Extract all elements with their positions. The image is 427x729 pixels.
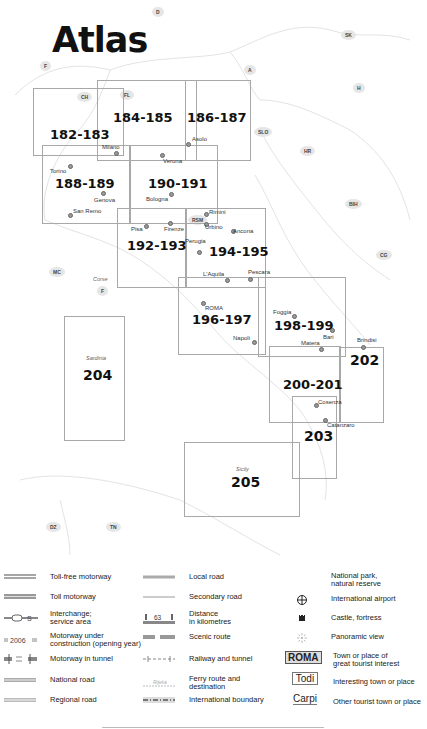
page-number-label[interactable]: 192-193 <box>127 238 187 253</box>
city-label: San Remo <box>73 208 101 214</box>
legend-item-regional-road: Regional road <box>4 695 97 705</box>
city-label: Cosenza <box>318 399 342 405</box>
legend-item-toll-motorway: Toll motorway <box>4 592 96 602</box>
ferry-route-icon: Rijeka <box>143 678 177 688</box>
region-label: Sicily <box>236 466 249 472</box>
country-code: A <box>244 65 256 75</box>
toll-motorway-icon <box>4 592 38 602</box>
legend-item-castle: Castle, fortress <box>285 613 381 623</box>
legend-item-national-park: National park, natural reserve <box>285 572 381 588</box>
national-park-icon <box>285 575 319 585</box>
legend-item-scenic-route: Scenic route <box>143 632 231 642</box>
city-label: L'Aquila <box>203 271 224 277</box>
legend-label: Railway and tunnel <box>189 655 252 663</box>
atlas-index-map: Atlas DFASKHCHFLSLOHRBIHCGMCRSMFDZTN 182… <box>0 0 427 560</box>
castle-icon <box>285 613 319 623</box>
city-marker-icon <box>319 347 324 352</box>
city-marker-icon <box>197 250 202 255</box>
legend-item-under-construction: 2006Motorway under construction (opening… <box>4 632 141 648</box>
legend-label: Distance in kilometres <box>189 610 231 626</box>
legend-item-other-town: CarpiOther tourist town or place <box>285 695 421 708</box>
map-legend: Toll-free motorwayToll motorwaySIntercha… <box>0 572 427 729</box>
country-code: D <box>152 7 164 17</box>
city-marker-icon <box>169 192 174 197</box>
legend-item-interesting-town: TodiInteresting town or place <box>285 675 415 688</box>
legend-label: Secondary road <box>189 593 242 601</box>
interchange-icon: S <box>4 613 38 623</box>
legend-label: Scenic route <box>189 633 231 641</box>
city-marker-icon <box>68 164 73 169</box>
city-label: Torino <box>50 168 66 174</box>
page-number-label[interactable]: 196-197 <box>192 312 252 327</box>
city-label: Matera <box>301 340 320 346</box>
country-code: H <box>353 83 365 93</box>
legend-label: National road <box>50 676 95 684</box>
city-label: ROMA <box>205 305 223 311</box>
svg-text:S: S <box>27 615 32 622</box>
country-code: BIH <box>345 199 362 209</box>
page-number-label[interactable]: 186-187 <box>187 110 247 125</box>
legend-item-great-town: ROMATown or place of great tourist inter… <box>285 652 399 668</box>
country-code: SK <box>341 30 356 40</box>
local-road-icon <box>143 572 177 582</box>
page-number-label[interactable]: 188-189 <box>55 176 115 191</box>
legend-item-toll-free-motorway: Toll-free motorway <box>4 572 111 582</box>
legend-item-ferry-route: RijekaFerry route and destination <box>143 675 240 691</box>
city-marker-icon <box>248 277 253 282</box>
city-label: Perugia <box>185 238 206 244</box>
motorway-tunnel-icon <box>4 654 38 664</box>
national-road-icon <box>4 675 38 685</box>
legend-label: International boundary <box>189 696 264 704</box>
legend-label: Toll motorway <box>50 593 96 601</box>
city-label: Urbino <box>205 224 223 230</box>
country-code: TN <box>106 522 121 532</box>
city-label: Brindisi <box>357 337 377 343</box>
legend-item-interchange: SInterchange; service area <box>4 610 92 626</box>
legend-item-distance: 63Distance in kilometres <box>143 610 231 626</box>
legend-item-railway-tunnel: Railway and tunnel <box>143 654 252 664</box>
legend-label: Local road <box>189 573 224 581</box>
page-number-label[interactable]: 205 <box>231 474 260 490</box>
toll-free-motorway-icon <box>4 572 38 582</box>
legend-item-airport: International airport <box>285 594 396 604</box>
page-number-label[interactable]: 202 <box>350 352 379 368</box>
regional-road-icon <box>4 695 38 705</box>
page-number-label[interactable]: 184-185 <box>113 110 173 125</box>
city-label: Pescara <box>248 269 270 275</box>
legend-label: Interchange; service area <box>50 610 92 626</box>
region-label: Sardinia <box>86 355 106 361</box>
page-number-label[interactable]: 198-199 <box>274 318 334 333</box>
page-number-label[interactable]: 194-195 <box>209 244 269 259</box>
city-marker-icon <box>225 278 230 283</box>
secondary-road-icon <box>143 592 177 602</box>
legend-label: Interesting town or place <box>333 678 415 686</box>
country-code: F <box>97 286 108 296</box>
panoramic-view-icon <box>285 632 319 642</box>
page-number-label[interactable]: 203 <box>304 428 333 444</box>
page-number-label[interactable]: 200-201 <box>283 377 343 392</box>
city-label: Catanzaro <box>327 422 355 428</box>
great-town-icon: ROMA <box>285 654 325 667</box>
legend-label: Motorway under construction (opening yea… <box>50 632 141 648</box>
legend-label: Motorway in tunnel <box>50 655 113 663</box>
legend-item-motorway-tunnel: Motorway in tunnel <box>4 654 113 664</box>
svg-text:2006: 2006 <box>10 637 26 644</box>
city-label: Asolo <box>192 136 207 142</box>
city-label: Bologna <box>146 196 168 202</box>
legend-label: Regional road <box>50 696 97 704</box>
atlas-title: Atlas <box>52 20 147 60</box>
city-marker-icon <box>252 340 257 345</box>
region-label: Corse <box>93 276 108 282</box>
page-number-label[interactable]: 190-191 <box>148 176 208 191</box>
svg-text:63: 63 <box>154 614 162 621</box>
page-number-label[interactable]: 182-183 <box>50 127 110 142</box>
legend-item-national-road: National road <box>4 675 95 685</box>
page-number-label[interactable]: 204 <box>83 367 112 383</box>
svg-text:Rijeka: Rijeka <box>153 679 167 685</box>
country-code: CG <box>376 250 392 260</box>
legend-item-local-road: Local road <box>143 572 224 582</box>
interesting-town-icon: Todi <box>285 675 325 688</box>
scenic-route-icon <box>143 632 177 642</box>
country-code: MC <box>49 267 65 277</box>
city-label: Ancona <box>233 228 253 234</box>
